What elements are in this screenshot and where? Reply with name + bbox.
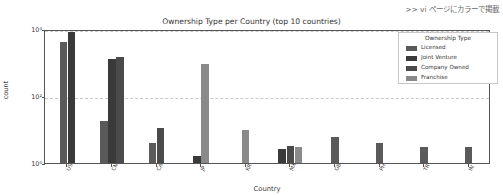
bar (376, 143, 384, 163)
legend-label: Licensed (421, 44, 446, 50)
legend-swatch (406, 76, 417, 81)
x-tick-label: MX (288, 162, 297, 172)
bar (201, 64, 209, 163)
bar (100, 121, 108, 163)
x-tick-label: TR (422, 163, 431, 172)
bar (420, 147, 428, 163)
y-tick-label: 10⁴ (31, 26, 42, 34)
legend-title: Ownership Type (399, 35, 497, 41)
legend-label: Company Owned (421, 64, 469, 70)
legend-label: Joint Venture (421, 54, 457, 60)
chart-title: Ownership Type per Country (top 10 count… (0, 17, 503, 26)
bar (331, 137, 339, 163)
x-tick-label: JP (199, 165, 207, 172)
bar (193, 156, 201, 163)
bar (157, 128, 165, 163)
chart-screenshot: >> vi ページにカラーで掲載 Ownership Type per Coun… (0, 0, 503, 195)
figure: Ownership Type per Country (top 10 count… (0, 14, 503, 195)
legend-swatch (406, 46, 417, 51)
y-tick-label: 10² (31, 93, 42, 101)
bar (278, 149, 286, 163)
x-tick-label: IN (467, 164, 475, 172)
bar (465, 147, 473, 163)
bar (60, 42, 68, 163)
y-tick-label: 10⁰ (31, 160, 42, 168)
bar (108, 59, 116, 163)
legend-swatch (406, 66, 417, 71)
legend-label: Franchise (421, 74, 448, 80)
bar (295, 147, 303, 163)
bar (116, 57, 124, 163)
legend-swatch (406, 56, 417, 61)
bar (287, 146, 295, 163)
x-axis-title: Country (44, 185, 490, 193)
legend: Ownership Type LicensedJoint VentureComp… (398, 32, 498, 84)
y-axis-ticks: 10⁰10²10⁴ (0, 30, 42, 164)
bar (68, 32, 76, 163)
bar (149, 143, 157, 163)
page-annotation-japanese: >> vi ページにカラーで掲載 (405, 3, 499, 14)
x-tick-label: US (65, 162, 74, 171)
bar (242, 130, 250, 164)
